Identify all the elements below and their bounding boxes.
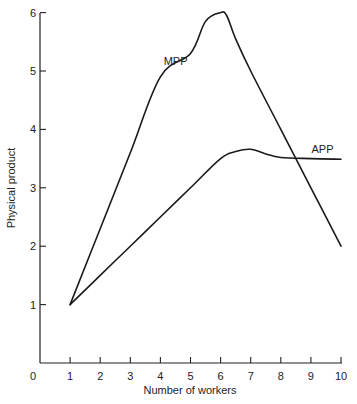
series-app-line — [70, 149, 341, 304]
chart: 123456 12345678910 0 Number of workers P… — [0, 0, 357, 404]
x-tick-label: 6 — [218, 370, 224, 382]
series-app-label: APP — [311, 143, 333, 155]
x-axis-title: Number of workers — [144, 384, 237, 396]
x-tick-label: 3 — [127, 370, 133, 382]
origin-label: 0 — [30, 370, 36, 382]
series-mpp-label: MPP — [164, 55, 188, 67]
y-tick-label: 1 — [30, 299, 36, 311]
y-axis: 123456 — [30, 7, 46, 363]
series-layer: MPPAPP — [70, 12, 341, 305]
x-tick-label: 10 — [335, 370, 347, 382]
y-tick-label: 5 — [30, 65, 36, 77]
x-tick-label: 2 — [97, 370, 103, 382]
x-tick-label: 8 — [278, 370, 284, 382]
x-tick-label: 4 — [157, 370, 163, 382]
x-tick-label: 5 — [187, 370, 193, 382]
y-tick-label: 3 — [30, 182, 36, 194]
x-tick-label: 9 — [308, 370, 314, 382]
x-tick-label: 1 — [67, 370, 73, 382]
x-tick-label: 7 — [248, 370, 254, 382]
y-tick-label: 4 — [30, 123, 36, 135]
y-tick-label: 2 — [30, 240, 36, 252]
y-tick-label: 6 — [30, 7, 36, 19]
x-axis: 12345678910 — [40, 357, 347, 382]
y-axis-title: Physical product — [5, 148, 17, 229]
